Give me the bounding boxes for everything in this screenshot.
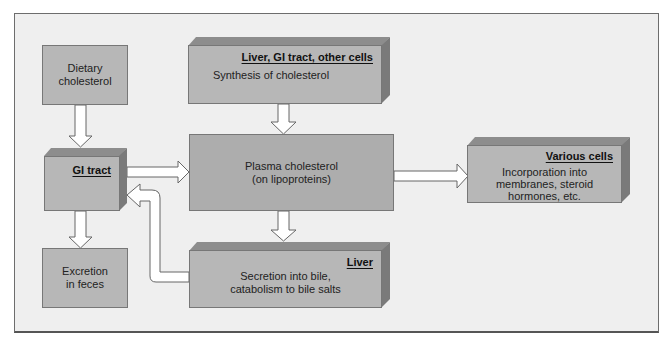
node-gi-tract: GI tract xyxy=(44,156,120,211)
gi-tract-header: GI tract xyxy=(72,164,111,177)
synthesis-side-face xyxy=(381,37,390,104)
various-side-face xyxy=(621,137,630,203)
excretion-label-2: in feces xyxy=(62,278,108,291)
excretion-label-1: Excretion xyxy=(62,265,108,278)
liver-header: Liver xyxy=(347,256,373,269)
node-dietary-cholesterol: Dietary cholesterol xyxy=(42,45,128,105)
arrow-gi-to-plasma xyxy=(127,161,189,183)
gi-tract-top-face xyxy=(44,148,127,156)
plasma-label-2: (on lipoproteins) xyxy=(245,173,338,186)
arrow-gi-to-excretion xyxy=(69,211,92,248)
node-synthesis: Liver, GI tract, other cells Synthesis o… xyxy=(188,45,382,104)
arrow-plasma-to-various xyxy=(394,164,468,188)
arrow-liver-to-gi xyxy=(127,184,189,282)
liver-side-face xyxy=(381,242,390,308)
arrow-dietary-to-gi xyxy=(69,105,92,147)
gi-tract-side-face xyxy=(119,148,127,211)
node-liver: Liver Secretion into bile, catabolism to… xyxy=(189,250,382,308)
dietary-label-1: Dietary xyxy=(58,62,111,75)
arrow-plasma-to-liver xyxy=(271,211,296,241)
node-excretion: Excretion in feces xyxy=(42,248,128,308)
dietary-label-2: cholesterol xyxy=(58,75,111,88)
synthesis-label: Synthesis of cholesterol xyxy=(161,69,381,82)
various-label-3: hormones, etc. xyxy=(468,190,621,203)
liver-label-2: catabolism to bile salts xyxy=(190,283,381,296)
various-header: Various cells xyxy=(546,150,613,163)
plasma-label-1: Plasma cholesterol xyxy=(245,160,338,173)
synthesis-header: Liver, GI tract, other cells xyxy=(242,51,373,64)
node-plasma-cholesterol: Plasma cholesterol (on lipoproteins) xyxy=(189,134,394,211)
node-various-cells: Various cells Incorporation into membran… xyxy=(467,145,622,203)
arrow-synthesis-to-plasma xyxy=(271,104,296,134)
liver-label-1: Secretion into bile, xyxy=(190,270,381,283)
